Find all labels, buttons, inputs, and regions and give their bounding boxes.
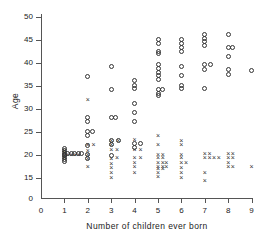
plot-area xyxy=(0,0,259,238)
data-point-circle xyxy=(179,64,184,69)
scatter-plot-figure: Age Number of children ever born 1520253… xyxy=(0,0,259,238)
data-point-circle xyxy=(132,119,137,124)
data-point-circle xyxy=(179,49,184,54)
data-point-cross xyxy=(179,142,184,147)
data-point-circle xyxy=(85,119,90,124)
data-point-cross xyxy=(156,133,161,138)
data-point-circle xyxy=(113,115,118,120)
data-point-circle xyxy=(202,43,207,48)
data-point-circle xyxy=(208,62,213,67)
data-point-cross xyxy=(109,175,114,180)
data-point-circle xyxy=(90,129,95,134)
data-point-circle xyxy=(132,110,137,115)
data-point-circle xyxy=(156,51,161,56)
data-point-cross xyxy=(216,155,221,160)
data-point-circle xyxy=(132,101,137,106)
data-point-cross xyxy=(202,170,207,175)
data-point-circle xyxy=(202,67,207,72)
data-point-circle xyxy=(156,93,161,98)
data-point-circle xyxy=(202,86,207,91)
data-point-cross xyxy=(138,147,143,152)
data-point-circle xyxy=(179,73,184,78)
data-point-cross xyxy=(230,155,235,160)
data-point-circle xyxy=(230,45,235,50)
data-point-cross xyxy=(76,152,81,157)
data-point-cross xyxy=(132,137,137,142)
data-point-cross xyxy=(202,178,207,183)
data-point-circle xyxy=(85,74,90,79)
data-point-cross xyxy=(85,164,90,169)
data-point-circle xyxy=(156,41,161,46)
data-point-circle xyxy=(226,32,231,37)
data-point-circle xyxy=(160,87,165,92)
data-point-circle xyxy=(85,133,90,138)
data-point-cross xyxy=(132,170,137,175)
data-point-circle xyxy=(156,77,161,82)
data-point-circle xyxy=(109,87,114,92)
data-point-cross xyxy=(91,142,96,147)
data-point-cross xyxy=(179,175,184,180)
data-point-cross xyxy=(132,147,137,152)
data-point-circle xyxy=(132,86,137,91)
data-point-cross xyxy=(85,97,90,102)
data-point-cross xyxy=(109,147,114,152)
data-point-cross xyxy=(160,166,165,171)
data-point-circle xyxy=(109,64,114,69)
data-point-cross xyxy=(230,164,235,169)
data-point-circle xyxy=(226,72,231,77)
data-point-cross xyxy=(115,147,120,152)
data-point-cross xyxy=(184,160,189,165)
data-point-circle xyxy=(179,86,184,91)
data-point-cross xyxy=(156,174,161,179)
data-point-cross xyxy=(116,138,121,143)
data-point-cross xyxy=(156,142,161,147)
data-point-cross xyxy=(138,155,143,160)
data-point-circle xyxy=(226,54,231,59)
data-point-cross xyxy=(249,164,254,169)
data-point-circle xyxy=(138,141,143,146)
data-point-cross xyxy=(115,155,120,160)
data-point-cross xyxy=(85,156,90,161)
data-point-circle xyxy=(249,68,254,73)
